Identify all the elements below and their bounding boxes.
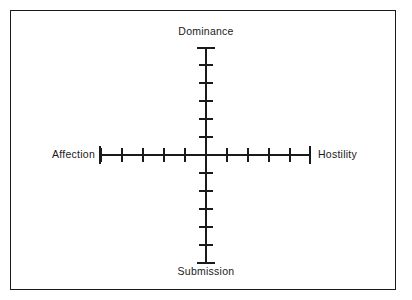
axis-label-submission: Submission (0, 266, 412, 277)
axis-label-affection: Affection (20, 149, 95, 160)
axis-label-dominance: Dominance (0, 26, 412, 37)
figure-root: Dominance Submission Affection Hostility (0, 0, 412, 300)
axis-label-hostility: Hostility (318, 149, 408, 160)
